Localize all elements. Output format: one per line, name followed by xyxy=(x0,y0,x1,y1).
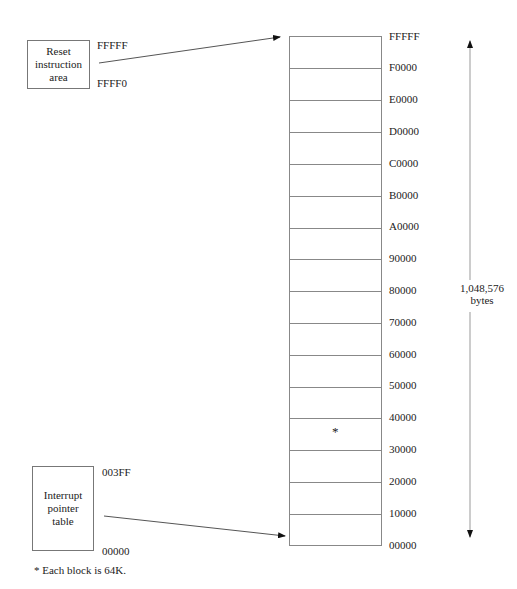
diagram-arrows xyxy=(0,0,517,589)
interrupt-arrow xyxy=(104,516,285,536)
reset-arrow xyxy=(99,37,280,63)
